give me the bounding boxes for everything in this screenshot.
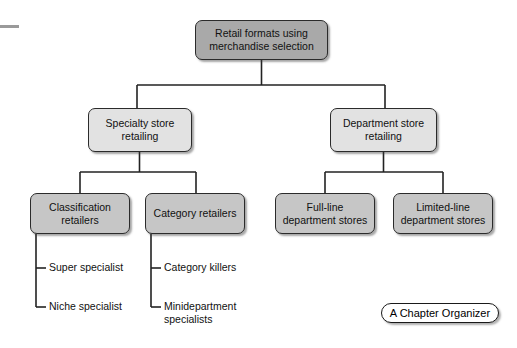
leaf-super-specialist: Super specialist — [49, 261, 129, 274]
node-root-label: Retail formats using merchandise selecti… — [196, 27, 327, 53]
leaf-minidepartment-specialists: Minidepartment specialists — [164, 300, 259, 327]
leaf-category-killers: Category killers — [164, 261, 249, 274]
node-root: Retail formats using merchandise selecti… — [195, 20, 328, 60]
node-classification-retailers: Classification retailers — [30, 193, 130, 234]
node-category-retailers: Category retailers — [145, 193, 245, 234]
node-specialty-store-retailing: Specialty store retailing — [88, 108, 192, 152]
diagram-canvas: Retail formats using merchandise selecti… — [0, 0, 517, 348]
node-department-store-retailing: Department store retailing — [330, 108, 437, 152]
node-limited-line-department-stores-label: Limited-line department stores — [394, 201, 492, 227]
node-category-retailers-label: Category retailers — [150, 207, 241, 220]
node-specialty-store-retailing-label: Specialty store retailing — [89, 117, 191, 143]
leaf-super-specialist-label: Super specialist — [49, 261, 129, 274]
node-full-line-department-stores: Full-line department stores — [275, 193, 375, 234]
leaf-minidepartment-specialists-label: Minidepartment specialists — [164, 300, 259, 327]
leaf-niche-specialist: Niche specialist — [49, 300, 129, 313]
node-limited-line-department-stores: Limited-line department stores — [393, 193, 493, 234]
leaf-niche-specialist-label: Niche specialist — [49, 300, 129, 313]
chapter-organizer-badge: A Chapter Organizer — [381, 303, 499, 323]
leaf-category-killers-label: Category killers — [164, 261, 249, 274]
node-full-line-department-stores-label: Full-line department stores — [276, 201, 374, 227]
node-classification-retailers-label: Classification retailers — [31, 201, 129, 227]
chapter-organizer-label: A Chapter Organizer — [390, 307, 490, 319]
node-department-store-retailing-label: Department store retailing — [331, 117, 436, 143]
